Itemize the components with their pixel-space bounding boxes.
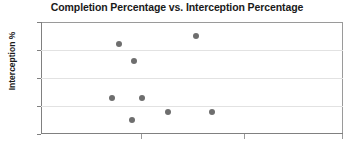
data-point: [165, 109, 171, 115]
data-point: [193, 33, 199, 39]
gridline: [41, 78, 343, 79]
gridline: [41, 50, 343, 51]
plot-border-bottom: [41, 133, 343, 134]
y-tick-mark: [37, 22, 41, 23]
data-point: [129, 117, 135, 123]
data-point: [116, 41, 122, 47]
gridline: [41, 106, 343, 107]
y-tick-mark: [37, 106, 41, 107]
plot-border-top: [41, 22, 343, 23]
chart-title: Completion Percentage vs. Interception P…: [0, 1, 354, 13]
y-tick-mark: [37, 50, 41, 51]
scatter-chart: Completion Percentage vs. Interception P…: [0, 0, 354, 147]
data-point: [131, 58, 137, 64]
y-axis-label: Interception %: [7, 13, 17, 109]
data-point: [209, 109, 215, 115]
data-point: [139, 95, 145, 101]
x-tick-mark: [141, 134, 142, 139]
data-point: [109, 95, 115, 101]
x-tick-mark: [342, 134, 343, 139]
x-tick-mark: [244, 134, 245, 139]
y-tick-mark: [37, 78, 41, 79]
y-tick-mark: [37, 134, 41, 135]
plot-area: 12345: [41, 22, 343, 134]
